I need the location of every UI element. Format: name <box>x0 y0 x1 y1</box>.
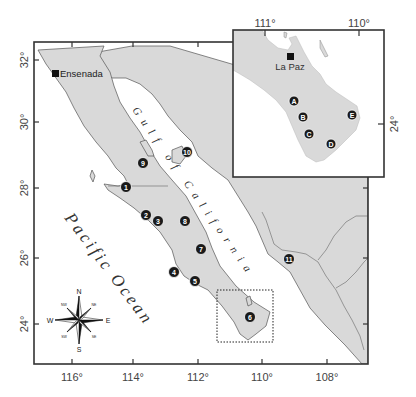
svg-text:7: 7 <box>199 246 203 253</box>
svg-text:26°: 26° <box>18 250 30 267</box>
svg-text:10: 10 <box>183 149 191 156</box>
lon-tick: 108° <box>316 359 339 383</box>
svg-text:E: E <box>350 112 355 119</box>
svg-text:1: 1 <box>124 184 128 191</box>
compass-sw: SW <box>61 335 67 339</box>
svg-text:24°: 24° <box>388 116 400 133</box>
site-marker-B[interactable]: B <box>298 112 308 122</box>
compass-ne: NE <box>92 303 98 307</box>
pacific-ocean-label: Pacific Ocean <box>60 208 157 329</box>
site-marker-3[interactable]: 3 <box>153 216 164 227</box>
city-label: Ensenada <box>60 68 104 79</box>
city-label: La Paz <box>275 61 305 72</box>
site-marker-9[interactable]: 9 <box>138 158 149 169</box>
island-cedros <box>90 170 95 182</box>
site-marker-E[interactable]: E <box>347 110 357 120</box>
compass-rose-icon: N S E W NE NW SE SW <box>47 288 111 353</box>
compass-se: SE <box>92 335 97 339</box>
compass-nw: NW <box>61 303 68 307</box>
lon-tick: 110° <box>251 359 273 383</box>
svg-text:116°: 116° <box>61 371 83 383</box>
site-marker-6[interactable]: 6 <box>245 312 256 323</box>
site-marker-8[interactable]: 8 <box>180 216 191 227</box>
svg-text:114°: 114° <box>122 371 144 383</box>
svg-text:D: D <box>328 141 333 148</box>
city-square-icon <box>287 53 294 60</box>
svg-text:6: 6 <box>248 314 252 321</box>
svg-text:A: A <box>291 98 296 105</box>
svg-text:11: 11 <box>285 256 293 263</box>
site-marker-2[interactable]: 2 <box>141 210 152 221</box>
svg-text:C: C <box>306 131 311 138</box>
svg-text:8: 8 <box>183 218 187 225</box>
svg-text:2: 2 <box>144 212 148 219</box>
svg-text:110°: 110° <box>251 371 273 383</box>
inset-map: 111° 110° 24° La Paz A B C D E <box>233 17 400 177</box>
svg-text:30°: 30° <box>18 114 30 131</box>
svg-text:24°: 24° <box>18 316 30 333</box>
svg-text:5: 5 <box>193 278 197 285</box>
svg-text:3: 3 <box>156 218 160 225</box>
site-marker-1[interactable]: 1 <box>121 182 132 193</box>
city-square-icon <box>52 70 59 77</box>
svg-text:108°: 108° <box>316 371 339 383</box>
site-marker-4[interactable]: 4 <box>169 267 180 278</box>
svg-text:112°: 112° <box>187 371 209 383</box>
compass-s: S <box>77 346 82 353</box>
city-ensenada: Ensenada <box>52 68 104 79</box>
site-marker-11[interactable]: 11 <box>284 254 295 265</box>
compass-e: E <box>106 317 111 324</box>
svg-text:110°: 110° <box>348 17 370 29</box>
svg-text:9: 9 <box>141 160 145 167</box>
svg-text:4: 4 <box>172 269 176 276</box>
compass-w: W <box>47 317 54 324</box>
site-marker-7[interactable]: 7 <box>196 244 207 255</box>
site-marker-C[interactable]: C <box>304 129 314 139</box>
svg-text:111°: 111° <box>254 17 275 29</box>
site-marker-5[interactable]: 5 <box>190 276 201 287</box>
site-marker-A[interactable]: A <box>289 96 299 106</box>
site-marker-10[interactable]: 10 <box>182 147 193 158</box>
compass-n: N <box>76 288 81 295</box>
study-area-map: 116° 114° 112° 110° 108° 32° 30° 28° 26°… <box>0 0 416 397</box>
svg-text:28°: 28° <box>18 180 30 197</box>
svg-text:32°: 32° <box>18 52 30 69</box>
svg-text:B: B <box>300 114 305 121</box>
site-marker-D[interactable]: D <box>326 139 336 149</box>
